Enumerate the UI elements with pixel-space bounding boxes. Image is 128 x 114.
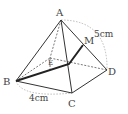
label-m: M (84, 35, 94, 46)
label-b: B (3, 76, 10, 87)
label-a: A (55, 7, 64, 18)
edge-bc (16, 81, 72, 93)
label-d: D (108, 66, 116, 77)
label-c: C (68, 98, 76, 109)
label-4cm: 4cm (29, 93, 49, 103)
edge-ab (16, 20, 61, 81)
edge-ac (61, 20, 72, 93)
edge-ae-hidden (50, 20, 61, 58)
edge-be-hidden (16, 58, 50, 81)
label-5cm: 5cm (94, 29, 114, 39)
label-e: E (48, 59, 53, 67)
edge-cd (72, 70, 107, 93)
pyramid-diagram: A B C D E M 5cm 4cm (0, 0, 128, 114)
